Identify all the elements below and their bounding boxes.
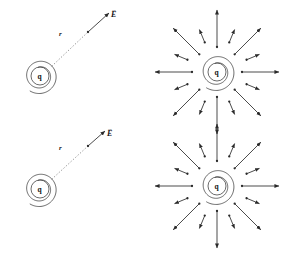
field-vector-arrow-0 — [88, 13, 109, 32]
field-line-long-3-1 — [235, 142, 261, 168]
charge-label-top-right: q — [215, 69, 219, 77]
vector-arrow-icon: → — [107, 128, 113, 131]
field-line-short-3-6 — [229, 216, 234, 229]
distance-dotted-line-0 — [52, 32, 88, 66]
field-vector-label-bottom-left: → E — [107, 128, 113, 138]
distance-label-bottom-left: r — [59, 145, 62, 152]
field-line-short-2-4 — [175, 84, 188, 89]
field-line-short-2-0 — [247, 54, 260, 59]
vector-arrow-icon: → — [111, 9, 117, 12]
figure-canvas — [0, 0, 289, 255]
field-line-short-2-6 — [229, 102, 234, 115]
field-line-short-3-5 — [199, 216, 204, 229]
field-line-short-2-2 — [199, 30, 204, 43]
field-line-short-2-7 — [247, 84, 260, 89]
field-line-long-2-7 — [235, 90, 261, 116]
field-line-short-2-5 — [199, 102, 204, 115]
field-line-long-3-7 — [235, 204, 261, 230]
field-vector-label-top-left: → E — [111, 9, 117, 19]
distance-dotted-line-1 — [52, 146, 88, 179]
field-line-short-3-4 — [175, 198, 188, 203]
field-line-long-3-3 — [173, 142, 199, 168]
field-line-long-3-5 — [173, 204, 199, 230]
field-line-short-3-2 — [199, 144, 204, 157]
field-line-long-2-1 — [235, 28, 261, 54]
field-line-short-2-3 — [175, 54, 188, 59]
field-line-short-3-0 — [247, 168, 260, 173]
field-line-short-3-7 — [247, 198, 260, 203]
field-line-long-2-5 — [173, 90, 199, 116]
charge-label-top-left: q — [38, 73, 42, 81]
field-vector-arrow-1 — [88, 131, 105, 146]
field-line-short-3-3 — [175, 168, 188, 173]
field-line-short-3-1 — [229, 144, 234, 157]
charge-label-bottom-left: q — [38, 186, 42, 194]
charge-label-bottom-right: q — [215, 183, 219, 191]
physics-figure: q q q q r r → E → E — [0, 0, 289, 255]
field-line-long-2-3 — [173, 28, 199, 54]
field-line-short-2-1 — [229, 30, 234, 43]
distance-label-top-left: r — [59, 31, 62, 38]
